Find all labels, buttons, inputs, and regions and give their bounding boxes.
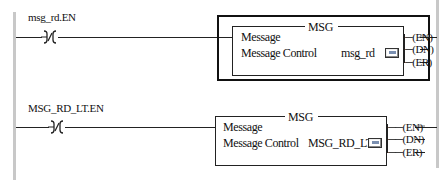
operand-value-message-control[interactable]: msg_rd <box>341 46 375 60</box>
contact-tag-label[interactable]: MSG_RD_LT.EN <box>28 102 104 114</box>
operand-value-message-control[interactable]: MSG_RD_LT <box>308 136 373 150</box>
xio-contact-icon[interactable] <box>41 30 59 44</box>
right-power-rail <box>436 0 439 168</box>
output-er: ──(ER) <box>388 146 422 158</box>
xio-contact-icon[interactable] <box>48 120 66 134</box>
msg-instruction-block[interactable]: MSG Message Message Control MSG_RD_LT <box>215 117 387 166</box>
instruction-mnemonic: MSG <box>308 20 333 34</box>
operand-label-message: Message <box>241 30 280 44</box>
rung-wire <box>16 127 49 128</box>
rung-wire <box>58 37 232 38</box>
rung-wire <box>65 127 216 128</box>
configure-ellipsis-button[interactable] <box>385 48 399 58</box>
rung-wire <box>16 37 42 38</box>
output-dn: ─(DN) <box>405 43 434 55</box>
operand-label-message-control: Message Control <box>223 136 299 150</box>
operand-label-message: Message <box>223 120 262 134</box>
configure-ellipsis-button[interactable] <box>368 138 382 148</box>
output-dn: ──(DN) <box>388 133 424 145</box>
instruction-mnemonic: MSG <box>288 110 313 124</box>
output-er: ─(ER) <box>405 56 432 68</box>
contact-tag-label[interactable]: msg_rd.EN <box>28 11 76 23</box>
output-en: ─(EN) <box>405 31 432 43</box>
msg-instruction-block[interactable]: MSG Message Message Control msg_rd <box>232 27 404 76</box>
operand-label-message-control: Message Control <box>241 46 317 60</box>
output-en: ──(EN) <box>388 121 423 133</box>
